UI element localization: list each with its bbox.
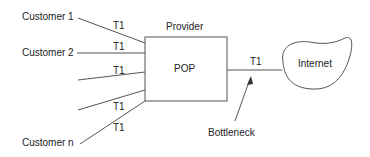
customer-1-line	[78, 18, 145, 43]
pop-label: POP	[174, 63, 195, 74]
customer-4-line	[78, 90, 145, 110]
internet-label: Internet	[298, 58, 332, 69]
customer-2-label: Customer 2	[22, 47, 74, 58]
customer-n-label: Customer n	[22, 137, 74, 148]
t1-label-5: T1	[113, 122, 125, 133]
t1-label-3: T1	[113, 65, 125, 76]
arrowhead-icon	[247, 76, 253, 85]
customer-1-label: Customer 1	[22, 11, 74, 22]
t1-label-4: T1	[113, 101, 125, 112]
customer-3-line	[78, 72, 145, 80]
bottleneck-label: Bottleneck	[208, 127, 256, 138]
t1-label-1: T1	[113, 20, 125, 31]
network-diagram: Customer 1 Customer 2 Customer n T1 T1 T…	[0, 0, 370, 157]
uplink-t1-label: T1	[250, 56, 262, 67]
provider-label: Provider	[166, 21, 204, 32]
bottleneck-arrow	[235, 79, 250, 121]
t1-label-2: T1	[113, 41, 125, 52]
